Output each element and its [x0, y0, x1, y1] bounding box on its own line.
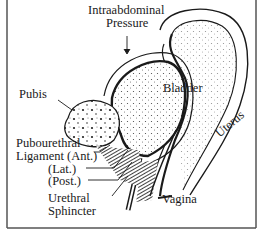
label-post: (Post.): [48, 175, 81, 188]
anatomy-diagram: Intraabdominal Pressure Bladder Pubis Pu…: [0, 0, 260, 236]
label-vagina: Vagina: [162, 193, 197, 206]
label-pressure: Pressure: [106, 17, 148, 30]
label-pubis: Pubis: [19, 88, 47, 101]
label-sphincter: Sphincter: [48, 205, 96, 218]
label-bladder: Bladder: [163, 82, 203, 95]
diagram-artwork: [0, 0, 260, 236]
